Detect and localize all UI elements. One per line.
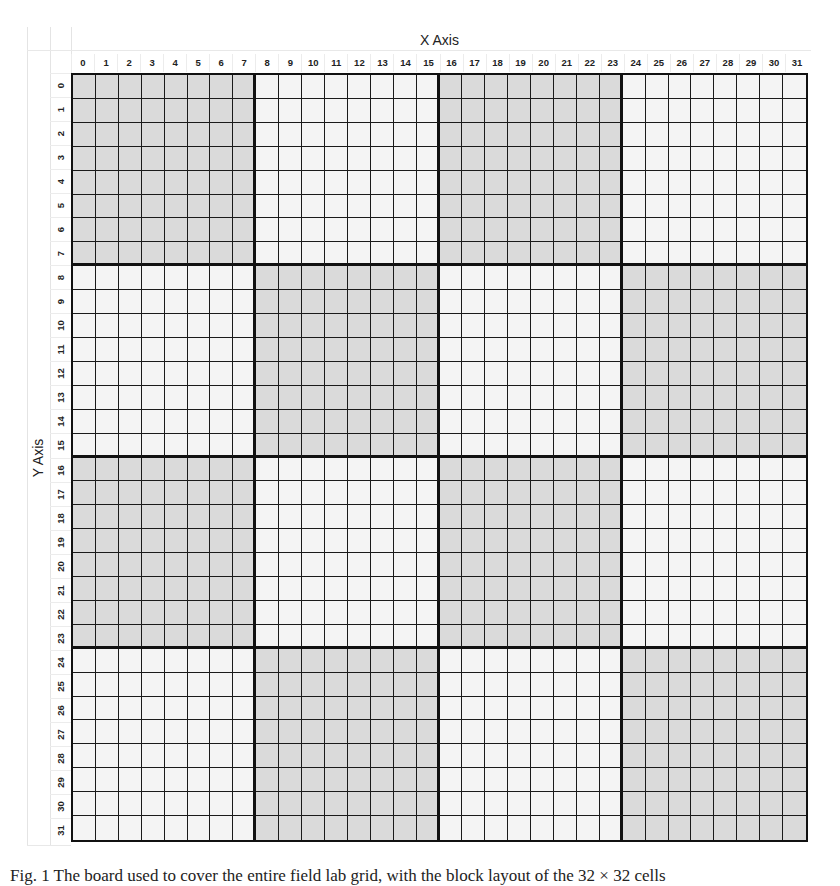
grid-cell bbox=[600, 601, 623, 625]
grid-cell bbox=[646, 553, 669, 577]
grid-cell bbox=[508, 792, 531, 816]
grid-cell bbox=[417, 218, 440, 242]
grid-cell bbox=[348, 673, 371, 697]
grid-cell bbox=[417, 386, 440, 410]
grid-cell bbox=[417, 290, 440, 314]
grid-cell bbox=[737, 697, 760, 721]
grid-cell bbox=[417, 649, 440, 673]
grid-cell bbox=[600, 266, 623, 290]
grid-cell bbox=[188, 768, 211, 792]
grid-cell bbox=[325, 99, 348, 123]
grid-cell bbox=[462, 266, 485, 290]
grid-cell bbox=[348, 123, 371, 147]
grid-cell bbox=[783, 99, 806, 123]
grid-cell bbox=[119, 314, 142, 338]
grid-cell bbox=[165, 75, 188, 99]
x-tick-label: 26 bbox=[670, 54, 693, 72]
grid-cell bbox=[96, 338, 119, 362]
grid-cell bbox=[554, 266, 577, 290]
grid-cell bbox=[600, 744, 623, 768]
y-tick-label: 5 bbox=[55, 203, 66, 208]
grid-cell bbox=[669, 410, 692, 434]
grid-cell bbox=[462, 625, 485, 649]
grid-cell bbox=[394, 410, 417, 434]
grid-cell bbox=[279, 434, 302, 458]
grid-cell bbox=[554, 505, 577, 529]
grid-cell bbox=[554, 290, 577, 314]
grid-cell bbox=[188, 75, 211, 99]
grid-cell bbox=[394, 266, 417, 290]
grid-cell bbox=[646, 386, 669, 410]
grid-cell bbox=[440, 768, 463, 792]
grid-cell bbox=[142, 338, 165, 362]
grid-cell bbox=[73, 290, 96, 314]
grid-cell bbox=[783, 720, 806, 744]
grid-cell bbox=[554, 792, 577, 816]
grid-cell bbox=[119, 649, 142, 673]
x-tick-label: 27 bbox=[693, 54, 716, 72]
y-tick-cell: 19 bbox=[50, 530, 71, 554]
grid-cell bbox=[714, 75, 737, 99]
grid-cell bbox=[188, 266, 211, 290]
grid-cell bbox=[508, 75, 531, 99]
y-tick-cell: 7 bbox=[50, 241, 71, 265]
grid-cell bbox=[119, 99, 142, 123]
grid-cell bbox=[165, 242, 188, 266]
grid-cell bbox=[394, 218, 417, 242]
grid-cell bbox=[348, 195, 371, 219]
grid-cell bbox=[348, 601, 371, 625]
grid-cell bbox=[188, 720, 211, 744]
grid-cell bbox=[142, 123, 165, 147]
grid-cell bbox=[348, 218, 371, 242]
x-tick-label: 14 bbox=[393, 54, 416, 72]
grid-cell bbox=[554, 75, 577, 99]
grid-cell bbox=[600, 505, 623, 529]
grid-cell bbox=[714, 649, 737, 673]
grid-cell bbox=[508, 434, 531, 458]
grid-cell bbox=[73, 458, 96, 482]
grid-cell bbox=[577, 529, 600, 553]
grid-cell bbox=[623, 290, 646, 314]
grid-cell bbox=[142, 792, 165, 816]
grid-cell bbox=[669, 75, 692, 99]
grid-cell bbox=[302, 529, 325, 553]
grid-cell bbox=[737, 720, 760, 744]
grid-cell bbox=[417, 744, 440, 768]
grid-cell bbox=[508, 768, 531, 792]
grid-cell bbox=[119, 768, 142, 792]
y-tick-label: 15 bbox=[55, 441, 66, 452]
grid-cell bbox=[600, 577, 623, 601]
grid-cell bbox=[165, 290, 188, 314]
grid-cell bbox=[760, 601, 783, 625]
grid-cell bbox=[760, 290, 783, 314]
grid-cell bbox=[485, 697, 508, 721]
grid-cell bbox=[554, 768, 577, 792]
grid-cell bbox=[233, 147, 256, 171]
grid-cell bbox=[783, 744, 806, 768]
grid-cell bbox=[714, 529, 737, 553]
grid-cell bbox=[256, 529, 279, 553]
grid-cell bbox=[325, 649, 348, 673]
y-tick-cell: 10 bbox=[50, 313, 71, 337]
grid-cell bbox=[462, 218, 485, 242]
grid-cell bbox=[394, 792, 417, 816]
grid-cell bbox=[714, 147, 737, 171]
grid-cell bbox=[554, 625, 577, 649]
grid-cell bbox=[256, 147, 279, 171]
grid-cell bbox=[210, 673, 233, 697]
grid-cell bbox=[577, 768, 600, 792]
grid-cell bbox=[96, 434, 119, 458]
grid-cell bbox=[623, 123, 646, 147]
grid-cell bbox=[371, 386, 394, 410]
grid-cell bbox=[96, 195, 119, 219]
grid-cell bbox=[623, 816, 646, 840]
grid-cell bbox=[96, 266, 119, 290]
grid-cell bbox=[233, 338, 256, 362]
grid-cell bbox=[371, 816, 394, 840]
grid-cell bbox=[302, 242, 325, 266]
grid-cell bbox=[165, 697, 188, 721]
y-tick-cell: 0 bbox=[50, 73, 71, 97]
grid-cell bbox=[646, 768, 669, 792]
grid-cell bbox=[600, 625, 623, 649]
grid-cell bbox=[440, 75, 463, 99]
